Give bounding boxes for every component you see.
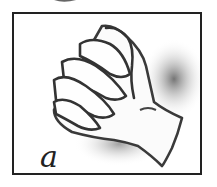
figure-caption: a — [40, 142, 58, 172]
figure-frame: a — [12, 12, 202, 175]
previous-figure-fragment — [50, 0, 80, 4]
